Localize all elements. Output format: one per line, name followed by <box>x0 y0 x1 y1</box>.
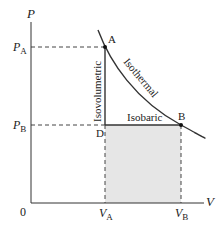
vb-label: VB <box>175 206 188 222</box>
isothermal-label: Isothermal <box>121 56 160 100</box>
point-d-label: D <box>96 127 104 139</box>
va-label: VA <box>99 206 113 222</box>
point-b-marker <box>179 123 183 127</box>
origin-label: 0 <box>20 205 26 219</box>
pa-label: PA <box>12 40 27 56</box>
isobaric-label: Isobaric <box>127 111 163 123</box>
point-a-label: A <box>108 33 116 45</box>
point-b-label: B <box>178 110 185 122</box>
isovolumetric-label: Isovolumetric <box>91 61 103 122</box>
y-axis-label: P <box>26 6 35 21</box>
pb-label: PB <box>12 118 26 134</box>
x-axis-label: V <box>206 194 216 209</box>
point-a-marker <box>103 45 107 49</box>
pv-diagram: P V 0 PA PB VA VB A B D Isobaric Isovolu… <box>0 0 222 229</box>
work-area-shading <box>105 125 181 203</box>
pv-diagram-svg: P V 0 PA PB VA VB A B D Isobaric Isovolu… <box>0 0 222 229</box>
